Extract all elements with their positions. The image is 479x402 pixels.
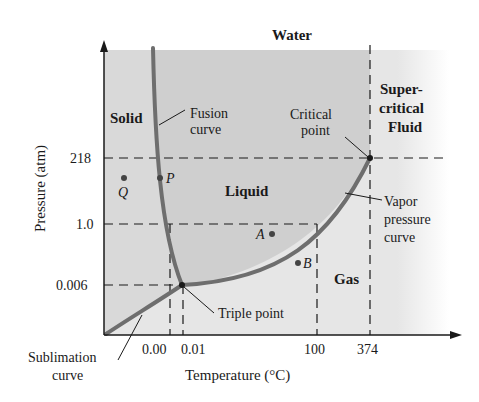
x-tick-001: 0.01: [181, 342, 206, 357]
x-axis-arrow-icon: [450, 331, 462, 339]
supercritical-label-2: critical: [379, 100, 424, 116]
y-tick-0006: 0.006: [56, 278, 88, 293]
y-axis-arrow-icon: [100, 40, 108, 52]
x-tick-000: 0.00: [142, 342, 167, 357]
solid-label: Solid: [110, 110, 143, 126]
supercritical-label-1: Super-: [380, 81, 423, 97]
vapor-label-1: Vapor: [384, 194, 418, 209]
point-q-marker: [121, 175, 127, 181]
liquid-label: Liquid: [225, 183, 269, 199]
sublimation-label-1: Sublimation: [28, 350, 96, 365]
chart-title: Water: [272, 27, 312, 43]
y-axis-title: Pressure (atm): [32, 145, 49, 232]
sublimation-label-2: curve: [52, 368, 83, 383]
point-p-label: P: [165, 171, 175, 186]
fusion-label-1: Fusion: [190, 106, 228, 121]
point-a-label: A: [255, 227, 265, 242]
y-tick-218: 218: [70, 151, 91, 166]
x-tick-374: 374: [357, 342, 378, 357]
critical-point-marker: [367, 155, 373, 161]
fusion-label-2: curve: [190, 122, 221, 137]
critical-label-1: Critical: [290, 107, 332, 122]
gas-label: Gas: [334, 271, 359, 287]
point-b-label: B: [303, 256, 312, 271]
point-q-label: Q: [118, 185, 128, 200]
point-p-marker: [157, 175, 163, 181]
supercritical-label-3: Fluid: [388, 119, 423, 135]
point-b-marker: [295, 260, 301, 266]
critical-label-2: point: [301, 123, 330, 138]
vapor-label-3: curve: [384, 230, 415, 245]
vapor-label-2: pressure: [384, 212, 431, 227]
x-tick-100: 100: [304, 342, 325, 357]
point-a-marker: [269, 231, 275, 237]
x-axis-title: Temperature (°C): [185, 367, 290, 384]
y-tick-1: 1.0: [76, 217, 94, 232]
phase-diagram: Water Solid Liquid Gas Super- critical F…: [0, 0, 479, 402]
triple-label: Triple point: [218, 306, 284, 321]
